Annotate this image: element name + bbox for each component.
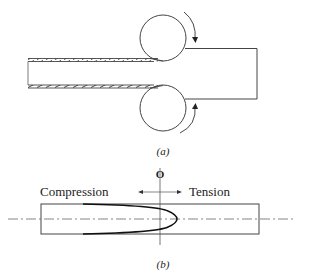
compression-label: Compression [40,184,109,199]
panel-a: (a) [28,12,257,158]
compression-arrowhead-icon [138,190,143,194]
roll-forming-diagram: (a) O Compression Tension (b) [0,0,309,276]
tension-label: Tension [189,184,230,199]
panel-b: O Compression Tension (b) [8,168,296,271]
lower-tube-wall [28,85,163,88]
workpiece-outline [185,49,257,100]
upper-arrowhead-icon [192,37,198,43]
lower-roll [140,85,186,131]
lower-roll-rotation-arrow-icon [180,106,195,133]
caption-a: (a) [157,145,170,158]
lower-arrowhead-icon [192,103,198,109]
upper-tube-wall [28,59,163,62]
caption-b: (b) [157,258,170,271]
upper-roll [140,15,186,61]
tension-arrowhead-icon [177,190,182,194]
